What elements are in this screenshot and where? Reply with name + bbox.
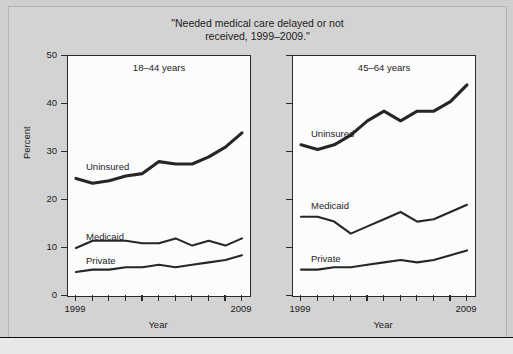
- y-tick-label: 10: [35, 241, 57, 252]
- chart-title-line2: received, 1999–2009.": [9, 30, 506, 43]
- x-tick: [125, 295, 126, 301]
- series-label-medicaid: Medicaid: [86, 231, 124, 242]
- series-line-uninsured: [301, 85, 467, 150]
- x-tick: [92, 295, 93, 301]
- x-tick: [141, 295, 142, 301]
- x-tick: [75, 295, 76, 301]
- series-label-private: Private: [86, 255, 116, 266]
- y-tick-label: 0: [35, 289, 57, 300]
- x-tick: [449, 295, 450, 301]
- x-tick: [433, 295, 434, 301]
- figure-container: "Needed medical care delayed or not rece…: [8, 6, 507, 338]
- x-tick: [108, 295, 109, 301]
- y-tick: [61, 151, 67, 152]
- x-tick-label-end: 2009: [221, 303, 261, 314]
- x-tick: [350, 295, 351, 301]
- x-tick: [300, 295, 301, 301]
- x-tick: [208, 295, 209, 301]
- series-label-medicaid: Medicaid: [311, 200, 349, 211]
- x-tick: [175, 295, 176, 301]
- x-tick: [241, 295, 242, 301]
- y-tick: [286, 151, 292, 152]
- y-tick-label: 50: [35, 49, 57, 60]
- x-tick: [317, 295, 318, 301]
- series-label-uninsured: Uninsured: [311, 128, 354, 139]
- y-axis-title: Percent: [21, 126, 32, 159]
- series-label-uninsured: Uninsured: [86, 161, 129, 172]
- y-tick: [61, 55, 67, 56]
- x-tick: [400, 295, 401, 301]
- y-tick: [286, 103, 292, 104]
- x-tick: [383, 295, 384, 301]
- y-tick: [61, 199, 67, 200]
- x-tick: [466, 295, 467, 301]
- series-label-private: Private: [311, 253, 341, 264]
- x-tick: [416, 295, 417, 301]
- y-tick-label: 40: [35, 97, 57, 108]
- y-tick: [286, 247, 292, 248]
- y-tick: [61, 103, 67, 104]
- chart-title-line1: "Needed medical care delayed or not: [9, 17, 506, 30]
- y-tick: [61, 295, 67, 296]
- bottom-caption: [0, 346, 513, 354]
- x-tick: [224, 295, 225, 301]
- x-tick-label-end: 2009: [446, 303, 486, 314]
- chart-title: "Needed medical care delayed or not rece…: [9, 17, 506, 43]
- panel-45-64: 45–64 years UninsuredMedicaidPrivate: [292, 55, 476, 297]
- y-tick-label: 30: [35, 145, 57, 156]
- panel-18-44: 18–44 years UninsuredMedicaidPrivate: [67, 55, 251, 297]
- x-tick: [158, 295, 159, 301]
- x-tick: [366, 295, 367, 301]
- x-axis-title: Year: [67, 319, 249, 330]
- series-line-uninsured: [76, 133, 242, 183]
- x-axis-title: Year: [292, 319, 474, 330]
- y-tick: [286, 295, 292, 296]
- x-tick: [191, 295, 192, 301]
- y-tick: [286, 199, 292, 200]
- y-tick: [286, 55, 292, 56]
- x-tick: [333, 295, 334, 301]
- y-tick-label: 20: [35, 193, 57, 204]
- y-tick: [61, 247, 67, 248]
- x-tick-label-start: 1999: [55, 303, 95, 314]
- x-tick-label-start: 1999: [280, 303, 320, 314]
